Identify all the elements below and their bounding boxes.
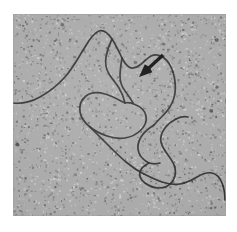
serpentine-inner-kink xyxy=(149,163,160,164)
plate-background xyxy=(13,14,226,216)
micrograph-image xyxy=(13,14,226,216)
micrograph-panel xyxy=(13,14,226,216)
figure-root xyxy=(0,0,237,232)
